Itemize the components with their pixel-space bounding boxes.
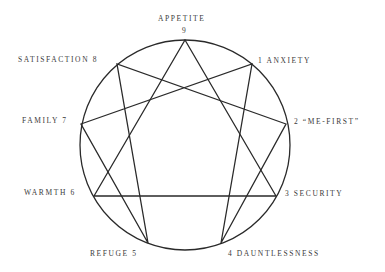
label-point-4: 4 DAUNTLESSNESS	[228, 250, 320, 258]
label-point-7: FAMILY 7	[22, 117, 68, 125]
hexad-figure	[81, 64, 286, 243]
label-point-3: 3 SECURITY	[285, 190, 343, 198]
label-point-1: 1 ANXIETY	[258, 57, 311, 65]
enneagram-diagram	[0, 0, 385, 272]
label-point-9-number: 9	[182, 27, 187, 35]
label-point-5: REFUGE 5	[90, 250, 138, 258]
enneagram-circle	[80, 40, 290, 250]
label-point-9-name: APPETITE	[158, 15, 205, 23]
label-point-8: SATISFACTION 8	[18, 56, 98, 64]
label-point-6: WARMTH 6	[24, 189, 76, 197]
inner-triangle	[94, 40, 276, 196]
label-point-2: 2 “ME-FIRST”	[294, 118, 360, 126]
